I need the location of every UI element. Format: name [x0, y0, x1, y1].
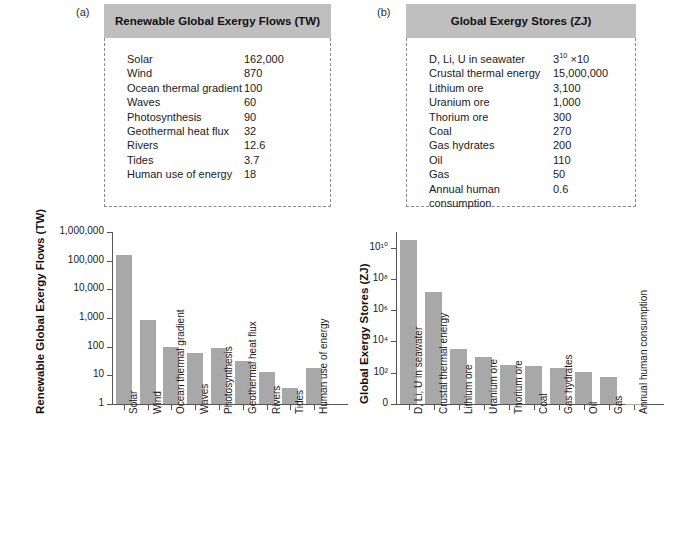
table-row: Gas50	[407, 167, 635, 181]
y-axis-tick	[391, 279, 396, 280]
table-row-value: 110	[553, 153, 571, 167]
table-row-label: Rivers	[105, 138, 244, 152]
table-row: Solar162,000	[105, 52, 330, 66]
x-axis-tick	[267, 405, 268, 410]
x-axis-tick-label: Wind	[152, 391, 163, 414]
x-axis-tick-label: Uranium ore	[488, 359, 499, 414]
x-axis-tick	[509, 405, 510, 410]
x-axis-tick-label: Photosynthesis	[223, 346, 234, 414]
x-axis-tick	[124, 405, 125, 410]
x-axis-tick-label: D, Li, U in seawater	[413, 327, 424, 414]
x-axis-tick	[243, 405, 244, 410]
table-row-label: Waves	[105, 95, 244, 109]
table-row-label: Gas hydrates	[407, 138, 553, 152]
bar	[116, 255, 132, 404]
table-row-value: 1,000	[553, 95, 581, 109]
table-row-label: Crustal thermal energy	[407, 66, 553, 80]
table-b-title: Global Exergy Stores (ZJ)	[406, 4, 636, 38]
table-row-value: 162,000	[244, 52, 284, 66]
x-axis-tick-label: Oil	[588, 402, 599, 414]
y-axis-tick	[391, 404, 396, 405]
y-axis-line	[396, 232, 397, 404]
table-row: Tides3.7	[105, 153, 330, 167]
x-axis-tick-label: Human use of energy	[318, 318, 329, 414]
y-axis-tick	[391, 248, 396, 249]
x-axis-tick-label: Waves	[199, 384, 210, 414]
x-axis-tick	[609, 405, 610, 410]
table-row-value: 50	[553, 167, 565, 181]
table-row: Thorium ore300	[407, 110, 635, 124]
x-axis-tick-label: Lithium ore	[463, 365, 474, 414]
table-card-a: Renewable Global Exergy Flows (TW) Solar…	[104, 4, 331, 207]
table-row-value: 90	[244, 110, 256, 124]
x-axis-tick-label: Annual human consumption	[638, 290, 649, 414]
table-row-value: 310 ×10	[553, 52, 589, 66]
y-axis-line	[112, 232, 113, 404]
table-row-value: 18	[244, 167, 256, 181]
x-axis-tick-label: Rivers	[271, 386, 282, 414]
table-row: Wind870	[105, 66, 330, 80]
table-row-value: 60	[244, 95, 256, 109]
y-axis-tick	[107, 404, 112, 405]
x-axis-tick	[584, 405, 585, 410]
table-row-value: 3,100	[553, 81, 581, 95]
table-row-label: Annual human consumption	[407, 182, 553, 211]
y-axis-tick	[391, 373, 396, 374]
table-card-b: Global Exergy Stores (ZJ) D, Li, U in se…	[406, 4, 636, 207]
y-axis-tick	[391, 341, 396, 342]
x-axis-tick	[195, 405, 196, 410]
x-axis-tick-label: Gas hydrates	[563, 355, 574, 414]
table-row-label: Solar	[105, 52, 244, 66]
y-axis-tick-label: 100,000	[48, 254, 104, 265]
y-axis-title: Global Exergy Stores (ZJ)	[358, 263, 370, 404]
x-axis-tick-label: Solar	[128, 391, 139, 414]
table-row-label: D, Li, U in seawater	[407, 52, 553, 66]
y-axis-tick	[107, 289, 112, 290]
x-axis-tick-label: Coal	[538, 393, 549, 414]
table-row-value: 100	[244, 81, 262, 95]
table-row-label: Tides	[105, 153, 244, 167]
y-axis-tick-label: 10,000	[48, 282, 104, 293]
panel-a-letter: (a)	[76, 6, 89, 18]
x-axis-tick-label: Geothermal heat flux	[247, 321, 258, 414]
y-axis-tick-label: 10	[48, 368, 104, 379]
table-row-label: Oil	[407, 153, 553, 167]
y-axis-title: Renewable Global Exergy Flows (TW)	[34, 209, 46, 414]
table-b-body: D, Li, U in seawater310 ×10Crustal therm…	[406, 38, 636, 207]
x-axis-tick	[459, 405, 460, 410]
y-axis-tick	[391, 310, 396, 311]
x-axis-tick	[484, 405, 485, 410]
table-row-value: 0.6	[553, 182, 568, 211]
table-row: Human use of energy18	[105, 167, 330, 181]
table-row-label: Lithium ore	[407, 81, 553, 95]
y-axis-tick	[107, 375, 112, 376]
x-axis-tick	[634, 405, 635, 410]
y-axis-tick	[107, 232, 112, 233]
table-row: Geothermal heat flux32	[105, 124, 330, 138]
chart-renewable-global-exergy-flows: 1101001,00010,000100,0001,000,000Renewab…	[0, 214, 350, 543]
table-row-value: 870	[244, 66, 262, 80]
y-axis-tick	[107, 318, 112, 319]
table-row: Oil110	[407, 153, 635, 167]
table-row-label: Human use of energy	[105, 167, 244, 181]
table-row-label: Photosynthesis	[105, 110, 244, 124]
y-axis-tick-label: 10¹⁰	[358, 241, 388, 252]
table-row: Rivers12.6	[105, 138, 330, 152]
table-row: Lithium ore3,100	[407, 81, 635, 95]
panel-b-letter: (b)	[377, 6, 390, 18]
table-row: Gas hydrates200	[407, 138, 635, 152]
y-axis-tick-label: 1	[48, 397, 104, 408]
table-row: Uranium ore1,000	[407, 95, 635, 109]
y-axis-tick-label: 1,000,000	[48, 225, 104, 236]
table-row: Photosynthesis90	[105, 110, 330, 124]
y-axis-tick	[107, 347, 112, 348]
table-row: Crustal thermal energy15,000,000	[407, 66, 635, 80]
table-row-label: Ocean thermal gradient	[105, 81, 244, 95]
x-axis-tick	[409, 405, 410, 410]
table-row-value: 300	[553, 110, 571, 124]
x-axis-tick-label: Crustal thermal energy	[438, 313, 449, 414]
x-axis-tick	[148, 405, 149, 410]
table-a-title: Renewable Global Exergy Flows (TW)	[104, 4, 331, 38]
table-row-value: 3.7	[244, 153, 259, 167]
x-axis-tick-label: Tides	[294, 390, 305, 414]
